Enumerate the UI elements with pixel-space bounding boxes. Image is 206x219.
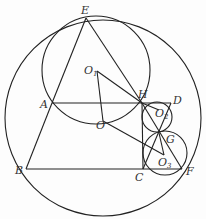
- label-h: H: [137, 88, 148, 101]
- label-b: B: [14, 164, 23, 177]
- segment-ab: [26, 103, 52, 169]
- segment-o1-o: [97, 71, 103, 121]
- segment-o1-h: [97, 71, 142, 103]
- label-o1: O1: [84, 64, 98, 78]
- diagram-canvas: E A B C F H D G O O1 O2 O3: [0, 0, 206, 219]
- label-d: D: [172, 94, 182, 107]
- segment-o-o3: [103, 121, 164, 155]
- label-e: E: [80, 4, 89, 17]
- label-o: O: [96, 119, 105, 132]
- segment-ea: [52, 18, 86, 103]
- label-c: C: [135, 171, 144, 184]
- geometry-diagram: E A B C F H D G O O1 O2 O3: [0, 0, 206, 219]
- segment-g-o3: [159, 133, 164, 155]
- label-g: G: [166, 133, 175, 146]
- label-o2: O2: [155, 107, 169, 121]
- label-o3: O3: [158, 156, 172, 170]
- label-f: F: [185, 165, 194, 178]
- label-a: A: [39, 98, 48, 111]
